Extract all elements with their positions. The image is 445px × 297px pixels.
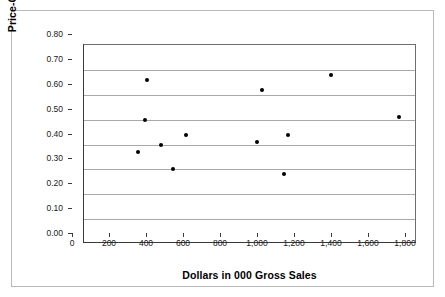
gridline-horizontal	[84, 219, 415, 220]
data-point	[143, 118, 147, 122]
y-axis-tick-label: 0.20	[29, 179, 63, 188]
data-point	[184, 133, 188, 137]
y-axis-tick-mark	[68, 109, 72, 110]
gridline-horizontal	[84, 145, 415, 146]
figure-border: Price-Gross Ratio Dollars in 000 Gross S…	[11, 10, 434, 287]
gridline-horizontal	[84, 194, 415, 195]
x-axis-tick-label: 1,400	[311, 238, 351, 248]
x-axis-tick-mark	[294, 233, 295, 237]
y-axis-tick-mark	[68, 134, 72, 135]
y-axis-tick-mark	[68, 59, 72, 60]
x-axis-tick-mark	[368, 233, 369, 237]
y-axis-tick-mark	[68, 183, 72, 184]
gridline-horizontal	[84, 95, 415, 96]
y-axis-tick-label: 0.80	[29, 30, 63, 39]
x-axis-tick-label: 1,000	[237, 238, 277, 248]
plot-area	[83, 44, 416, 243]
x-axis-tick-mark	[183, 233, 184, 237]
x-axis-tick-mark	[257, 233, 258, 237]
x-axis-tick-label: 800	[200, 238, 240, 248]
x-axis-tick-label: 600	[163, 238, 203, 248]
gridline-horizontal	[84, 70, 415, 71]
data-point	[260, 88, 264, 92]
y-axis-tick-label: 0.40	[29, 130, 63, 139]
data-point	[255, 140, 259, 144]
x-axis-tick-mark	[72, 233, 73, 237]
data-point	[329, 73, 333, 77]
y-axis-tick-label: 0.00	[29, 229, 63, 238]
x-axis-tick-mark	[109, 233, 110, 237]
gridline-horizontal	[84, 169, 415, 170]
y-axis-tick-mark	[68, 158, 72, 159]
x-axis-tick-label: 400	[126, 238, 166, 248]
y-axis-tick-label: 0.30	[29, 154, 63, 163]
y-axis-title: Price-Gross Ratio	[6, 0, 18, 67]
x-axis-tick-label: 1,200	[274, 238, 314, 248]
scatter-plot-figure: Price-Gross Ratio Dollars in 000 Gross S…	[0, 0, 445, 297]
x-axis-title: Dollars in 000 Gross Sales	[83, 269, 416, 281]
data-point	[286, 133, 290, 137]
data-point	[145, 78, 149, 82]
x-axis-tick-label: 0	[52, 238, 92, 248]
y-axis-tick-label: 0.70	[29, 55, 63, 64]
y-axis-tick-mark	[68, 84, 72, 85]
x-axis-tick-mark	[331, 233, 332, 237]
data-point	[171, 167, 175, 171]
x-axis-tick-mark	[220, 233, 221, 237]
y-axis-tick-label: 0.60	[29, 80, 63, 89]
y-axis-tick-label: 0.50	[29, 105, 63, 114]
y-axis-tick-mark	[68, 34, 72, 35]
y-axis-tick-mark	[68, 208, 72, 209]
data-point	[136, 150, 140, 154]
y-axis-tick-label: 0.10	[29, 204, 63, 213]
data-point	[397, 115, 401, 119]
x-axis-tick-label: 1,600	[348, 238, 388, 248]
gridline-horizontal	[84, 120, 415, 121]
x-axis-tick-mark	[405, 233, 406, 237]
x-axis-tick-label: 1,800	[385, 238, 425, 248]
x-axis-tick-mark	[146, 233, 147, 237]
data-point	[282, 172, 286, 176]
data-point	[159, 143, 163, 147]
x-axis-tick-label: 200	[89, 238, 129, 248]
